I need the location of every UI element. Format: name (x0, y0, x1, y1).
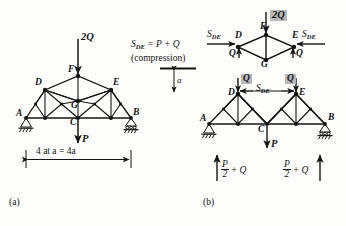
panel-a-span-dimension-label: 4 at a = 4a (36, 147, 76, 157)
left-reaction-denominator: 2 (221, 169, 229, 180)
panel-a-caption: (a) (9, 198, 20, 208)
panel-b-upper-right-Q-label: Q (296, 49, 303, 59)
panel-b-lower-load-P-label: P (271, 139, 277, 150)
panel-b-upper-left-Q-label: Q (229, 49, 236, 59)
panel-b-lower-SDE-subscript: DE (261, 87, 270, 94)
panel-b-upper-right-SDE-label: SDE (302, 30, 316, 40)
panel-b-lower-node-C: C (258, 125, 264, 135)
panel-b-upper-node-E: E (292, 31, 298, 41)
left-reaction-numerator: P (221, 160, 229, 170)
panel-a-node-A: A (16, 109, 22, 119)
right-reaction-fraction: P 2 (283, 160, 291, 181)
panel-b-upper-node-F: F (260, 22, 266, 32)
panel-a-node-E: E (113, 78, 119, 88)
panel-b-upper-node-G: G (261, 60, 268, 70)
panel-a-node-G: G (71, 101, 78, 111)
panel-b-upper-fbd (238, 35, 294, 60)
panel-b-upper-left-SDE-subscript: DE (212, 33, 221, 40)
panel-b-upper-left-SDE-label: SDE (207, 30, 221, 40)
panel-b-upper-right-SDE-subscript: DE (307, 33, 316, 40)
panel-b-lower-left-Q-label: Q (241, 74, 252, 84)
left-reaction-fraction: P 2 (221, 160, 229, 181)
center-note-equation-subscript: DE (136, 43, 145, 50)
center-note-equation: SDE = P + Q (131, 40, 180, 50)
left-reaction-rest: + Q (231, 166, 247, 176)
center-note-qualifier: (compression) (131, 54, 185, 64)
right-reaction-rest: + Q (293, 166, 309, 176)
panel-b-lower-node-B: B (328, 113, 334, 123)
center-note-equation-rest: = P + Q (145, 39, 180, 49)
panel-a-node-F: F (68, 65, 74, 75)
panel-b-lower-node-D: D (228, 88, 235, 98)
panel-a-roller-support (124, 118, 139, 133)
panel-a-load-P-label: P (82, 134, 88, 145)
right-reaction-label: P 2 + Q (283, 160, 308, 181)
panel-a-node-C: C (70, 118, 76, 128)
panel-b-lower-right-Q-label: Q (285, 74, 296, 84)
panel-b-pin-support (202, 124, 217, 138)
right-reaction-numerator: P (283, 160, 291, 170)
left-reaction-label: P 2 + Q (221, 160, 246, 181)
panel-b-lower-truss (209, 94, 325, 124)
panel-b-lower-node-A: A (200, 114, 206, 124)
panel-b-lower-SDE-label: SDE (256, 84, 270, 94)
panel-a-node-B: B (133, 108, 139, 118)
panel-b-lower-truss-joints (207, 92, 327, 126)
panel-b-caption: (b) (203, 198, 214, 208)
panel-b-roller-support (318, 124, 333, 139)
center-note-height-dim-label: a (177, 76, 182, 85)
panel-a-pin-support (19, 118, 34, 132)
panel-b-lower-node-E: E (299, 88, 305, 98)
right-reaction-denominator: 2 (283, 169, 291, 180)
panel-a-node-D: D (35, 78, 42, 88)
panel-b-upper-load-2Q-label: 2Q (270, 10, 287, 21)
panel-b-upper-node-D: D (235, 31, 242, 41)
panel-a-load-2Q-label: 2Q (81, 32, 94, 43)
truss-analysis-figure: A B C D E F G 2Q P 4 at a = 4a SDE = P +… (0, 0, 346, 226)
